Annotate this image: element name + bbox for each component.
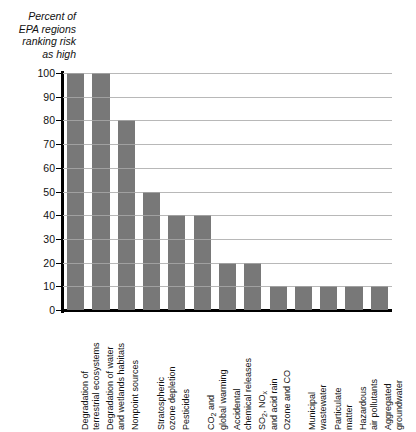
y-axis-tick xyxy=(56,144,62,145)
bar xyxy=(67,73,84,310)
bar xyxy=(270,286,287,310)
x-axis-category-label: Accidentalchemical releases xyxy=(232,314,253,430)
bar xyxy=(244,263,261,310)
y-axis-tick xyxy=(56,73,62,74)
x-axis-category-label: CO2 andglobal warming xyxy=(206,314,228,430)
bar xyxy=(194,215,211,310)
y-axis-tick xyxy=(56,97,62,98)
y-axis-tick-label: 50 xyxy=(3,187,55,198)
bar xyxy=(143,192,160,311)
x-axis-category-label: Ozone and CO xyxy=(282,314,293,430)
y-axis-tick-label: 20 xyxy=(3,258,55,269)
bar-series xyxy=(63,73,392,310)
x-axis-category-label: Pesticides xyxy=(181,314,192,430)
y-axis-tick xyxy=(56,192,62,193)
bar xyxy=(219,263,236,310)
y-axis-tick-label: 80 xyxy=(3,115,55,126)
y-axis-tick xyxy=(56,215,62,216)
bar xyxy=(118,120,135,310)
bar xyxy=(345,286,362,310)
x-axis-category-label: Degradation of waterand wetlands habitat… xyxy=(105,314,126,430)
y-axis-tick-label: 40 xyxy=(3,210,55,221)
x-axis-category-label: Aggregatedgroundwater xyxy=(383,314,404,430)
y-axis-tick-label: 30 xyxy=(3,234,55,245)
y-axis-tick-label: 60 xyxy=(3,163,55,174)
y-axis-tick-label: 90 xyxy=(3,92,55,103)
x-axis-category-label: Stratosphericozone depletion xyxy=(156,314,177,430)
y-axis-tick xyxy=(56,168,62,169)
bar xyxy=(320,286,337,310)
plot-area xyxy=(63,73,392,310)
bar xyxy=(371,286,388,310)
y-axis-tick-label: 100 xyxy=(3,68,55,79)
x-axis-category-label: SO2, NOxand acid rain xyxy=(257,314,279,430)
x-axis-category-label: Nonpoint sources xyxy=(130,314,141,430)
x-axis-category-label: Municipalwastewater xyxy=(307,314,328,430)
y-axis-tick-labels: 0102030405060708090100 xyxy=(0,0,55,432)
x-axis-category-labels: Degradation ofterrestrial ecosystemsDegr… xyxy=(63,314,403,432)
x-axis-category-label: Degradation ofterrestrial ecosystems xyxy=(80,314,101,430)
x-axis-category-label: Hazardousair pollutants xyxy=(358,314,379,430)
y-axis-tick xyxy=(56,310,62,311)
y-axis-tick-label: 0 xyxy=(3,305,55,316)
y-axis-tick xyxy=(56,286,62,287)
bar xyxy=(295,286,312,310)
bar xyxy=(168,215,185,310)
bar xyxy=(92,73,109,310)
x-axis-category-label: Particulatematter xyxy=(333,314,354,430)
y-axis-tick xyxy=(56,263,62,264)
y-axis-tick-label: 10 xyxy=(3,281,55,292)
y-axis-tick xyxy=(56,120,62,121)
y-axis-tick-label: 70 xyxy=(3,139,55,150)
y-axis-tick xyxy=(56,239,62,240)
